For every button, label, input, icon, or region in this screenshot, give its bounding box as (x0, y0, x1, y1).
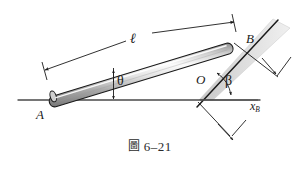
figure-caption: 圖6–21 (0, 136, 300, 155)
label-distance-xb: xB (250, 100, 260, 113)
xb-dimension-lower (198, 102, 246, 140)
label-angle-theta: θ (117, 74, 124, 88)
label-xb-subscript: B (255, 105, 260, 114)
incline-edge-line (197, 20, 278, 107)
label-point-a: A (36, 108, 44, 121)
label-point-b: B (246, 32, 254, 45)
label-point-o: O (196, 73, 205, 86)
caption-number: 6–21 (144, 139, 172, 154)
caption-prefix: 圖 (128, 139, 141, 153)
label-rod-length: ℓ (130, 32, 136, 46)
label-angle-beta: β (225, 74, 232, 88)
